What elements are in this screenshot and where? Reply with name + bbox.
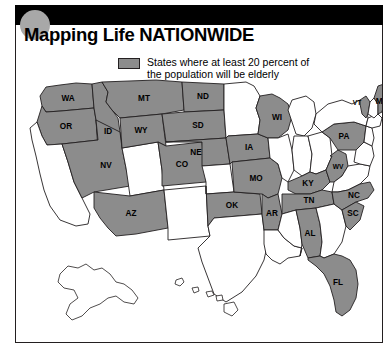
map-label-mo: MO [249, 174, 263, 183]
map-label-ar: AR [266, 209, 278, 218]
hawaii-island-1 [175, 278, 184, 286]
map-label-ne: NE [190, 148, 202, 157]
map-label-fl: FL [333, 278, 343, 287]
state-mi [288, 96, 316, 136]
map-label-sc: SC [347, 209, 358, 218]
map-label-nc: NC [348, 191, 360, 200]
page-title: Mapping Life NATIONWIDE [24, 24, 254, 46]
map-label-wy: WY [134, 126, 148, 135]
map-label-nv: NV [100, 161, 112, 170]
legend: States where at least 20 percent of the … [118, 57, 309, 80]
map-label-or: OR [60, 122, 72, 131]
map-label-tn: TN [304, 196, 315, 205]
map-label-wi: WI [272, 113, 282, 122]
map-label-co: CO [176, 160, 189, 169]
map-label-ia: IA [245, 143, 253, 152]
map-label-ky: KY [302, 179, 314, 188]
map-label-pa: PA [339, 132, 350, 141]
state-ak [58, 264, 138, 320]
legend-swatch-icon [118, 58, 140, 69]
title-band [15, 5, 383, 25]
hawaii-island-2 [192, 287, 199, 293]
hawaii-island-5 [224, 302, 238, 316]
map-label-ok: OK [226, 201, 238, 210]
map-label-wv: WV [333, 163, 344, 170]
state-tx [198, 214, 268, 302]
hawaii-island-3 [206, 291, 214, 297]
map-label-nd: ND [197, 92, 209, 101]
state-ks [202, 164, 234, 194]
state-nm [164, 186, 210, 240]
map-label-sd: SD [192, 121, 203, 130]
state-nj [364, 126, 374, 146]
map-label-al: AL [305, 229, 316, 238]
map-label-id: ID [104, 127, 112, 136]
state-ga [316, 204, 346, 258]
hawaii-island-4 [216, 295, 223, 301]
us-choropleth-map: WA OR ID MT ND SD WY NV AZ CO NE IA WI M… [16, 78, 382, 340]
state-ut [122, 142, 164, 196]
legend-label: States where at least 20 percent of the … [147, 57, 309, 80]
infographic-root: Mapping Life NATIONWIDE States where at … [0, 0, 392, 357]
map-label-vt: VT [353, 99, 361, 106]
map-label-az: AZ [126, 209, 137, 218]
map-label-me: ME [376, 97, 382, 106]
state-mn [224, 82, 260, 138]
map-label-mt: MT [138, 94, 150, 103]
map-label-wa: WA [61, 94, 74, 103]
